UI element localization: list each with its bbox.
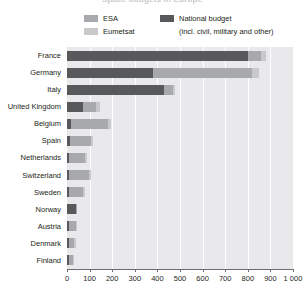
bar-segment-eumetsat[interactable]	[173, 85, 175, 95]
bar-row[interactable]	[67, 149, 293, 166]
bar-segment-eumetsat[interactable]	[74, 238, 75, 248]
legend-label-esa: ESA	[103, 14, 118, 23]
bar-row[interactable]	[67, 218, 293, 235]
x-axis-tick	[293, 269, 294, 272]
stacked-bar[interactable]	[67, 170, 91, 180]
category-label-united-kingdom: United Kingdom	[0, 98, 64, 115]
x-axis-label: 200	[106, 274, 119, 283]
bar-row[interactable]	[67, 81, 293, 98]
bar-segment-esa[interactable]	[69, 153, 84, 163]
bar-row[interactable]	[67, 184, 293, 201]
legend-column-left: ESA Eumetsat	[84, 14, 135, 40]
bar-segment-national-budget[interactable]	[67, 51, 248, 61]
x-axis-label: 800	[242, 274, 255, 283]
category-label-spain: Spain	[0, 132, 64, 149]
legend-item-national-budget: National budget	[160, 14, 274, 25]
stacked-bar[interactable]	[67, 238, 76, 248]
gridline	[293, 47, 294, 269]
bar-segment-esa[interactable]	[71, 119, 108, 129]
stacked-bar[interactable]	[67, 68, 259, 78]
x-axis-tick	[248, 269, 249, 272]
category-label-france: France	[0, 47, 64, 64]
bar-row[interactable]	[67, 98, 293, 115]
chart-legend: ESA Eumetsat National budget (incl. civi…	[0, 14, 304, 40]
legend-swatch-national-budget	[160, 15, 174, 22]
bar-segment-national-budget[interactable]	[67, 102, 83, 112]
x-axis-tick	[67, 269, 68, 272]
bar-segment-eumetsat[interactable]	[252, 68, 259, 78]
bar-segment-eumetsat[interactable]	[85, 153, 88, 163]
bar-segment-esa[interactable]	[70, 136, 91, 146]
bar-segment-eumetsat[interactable]	[89, 170, 91, 180]
x-axis-tick	[112, 269, 113, 272]
bar-segment-esa[interactable]	[76, 204, 77, 214]
x-axis-label: 100	[83, 274, 96, 283]
bar-row[interactable]	[67, 167, 293, 184]
legend-item-eumetsat: Eumetsat	[84, 27, 135, 38]
x-axis-label: 900	[264, 274, 277, 283]
bar-segment-national-budget[interactable]	[67, 68, 153, 78]
x-axis-tick	[225, 269, 226, 272]
x-axis-label: 400	[151, 274, 164, 283]
category-label-italy: Italy	[0, 81, 64, 98]
bar-segment-esa[interactable]	[69, 187, 83, 197]
x-axis-label: 600	[196, 274, 209, 283]
bar-row[interactable]	[67, 235, 293, 252]
bar-segment-esa[interactable]	[153, 68, 252, 78]
stacked-bar[interactable]	[67, 187, 85, 197]
legend-label-national-budget: National budget	[179, 14, 232, 23]
x-axis-label: 1 000	[284, 274, 303, 283]
x-axis-tick	[157, 269, 158, 272]
category-label-switzerland: Switzerland	[0, 167, 64, 184]
legend-swatch-eumetsat	[84, 28, 98, 35]
category-label-germany: Germany	[0, 64, 64, 81]
x-axis-tick	[90, 269, 91, 272]
category-label-denmark: Denmark	[0, 235, 64, 252]
stacked-bar[interactable]	[67, 119, 111, 129]
category-label-netherlands: Netherlands	[0, 149, 64, 166]
category-label-belgium: Belgium	[0, 115, 64, 132]
bar-row[interactable]	[67, 132, 293, 149]
x-axis-tick	[135, 269, 136, 272]
bar-segment-national-budget[interactable]	[67, 204, 76, 214]
stacked-bar[interactable]	[67, 221, 77, 231]
x-axis-label: 0	[65, 274, 69, 283]
stacked-bar[interactable]	[67, 51, 266, 61]
x-axis-tick	[203, 269, 204, 272]
bar-segment-eumetsat[interactable]	[91, 136, 93, 146]
category-label-finland: Finland	[0, 252, 64, 269]
x-axis-tick	[270, 269, 271, 272]
legend-label-eumetsat: Eumetsat	[103, 27, 135, 36]
bar-row[interactable]	[67, 115, 293, 132]
bar-segment-national-budget[interactable]	[67, 85, 164, 95]
stacked-bar[interactable]	[67, 85, 175, 95]
x-axis-label: 700	[219, 274, 232, 283]
category-axis-labels: FranceGermanyItalyUnited KingdomBelgiumS…	[0, 47, 64, 269]
bar-row[interactable]	[67, 252, 293, 269]
bar-segment-eumetsat[interactable]	[261, 51, 266, 61]
bar-row[interactable]	[67, 64, 293, 81]
plot-area	[67, 47, 293, 269]
chart-title: Space budgets in Europe	[0, 0, 304, 4]
stacked-bar[interactable]	[67, 255, 73, 265]
stacked-bar[interactable]	[67, 136, 93, 146]
bar-segment-esa[interactable]	[248, 51, 262, 61]
x-axis-label: 300	[129, 274, 142, 283]
stacked-bar[interactable]	[67, 153, 87, 163]
bar-segment-eumetsat[interactable]	[83, 187, 85, 197]
bar-row[interactable]	[67, 201, 293, 218]
legend-item-esa: ESA	[84, 14, 135, 25]
stacked-bar[interactable]	[67, 204, 77, 214]
legend-column-right: National budget (incl. civil, military a…	[160, 14, 274, 36]
bar-row[interactable]	[67, 47, 293, 64]
bar-segment-eumetsat[interactable]	[76, 221, 77, 231]
bar-segment-eumetsat[interactable]	[108, 119, 111, 129]
category-label-norway: Norway	[0, 201, 64, 218]
category-label-sweden: Sweden	[0, 184, 64, 201]
bar-segment-esa[interactable]	[164, 85, 173, 95]
bar-segment-eumetsat[interactable]	[96, 102, 99, 112]
bar-segment-esa[interactable]	[69, 170, 89, 180]
stacked-bar[interactable]	[67, 102, 100, 112]
bar-segment-esa[interactable]	[83, 102, 97, 112]
bar-segment-esa[interactable]	[69, 221, 76, 231]
